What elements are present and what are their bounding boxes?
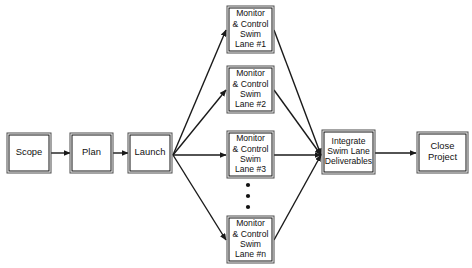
edge-launch-to-lane2 (173, 90, 226, 155)
node-label-integrate: Swim Lane (327, 146, 370, 156)
edge-launch-to-lane1 (173, 30, 226, 155)
flowchart-canvas: ScopePlanLaunchMonitor& ControlSwimLane … (0, 0, 472, 268)
node-label-lane2: & Control (233, 79, 269, 89)
edge-lane1-to-integrate (274, 30, 321, 155)
ellipsis-dot-1 (246, 183, 250, 187)
node-label-lane1: Swim (240, 29, 261, 39)
node-integrate[interactable]: IntegrateSwim LaneDeliverables (322, 130, 375, 174)
node-label-plan: Plan (82, 146, 101, 157)
nodes-layer: ScopePlanLaunchMonitor& ControlSwimLane … (7, 6, 468, 263)
node-plan[interactable]: Plan (70, 133, 113, 173)
node-label-lane1: Lane #1 (235, 39, 266, 49)
node-label-launch: Launch (135, 146, 166, 157)
node-label-lane1: Monitor (236, 8, 265, 18)
node-label-lane3: Swim (240, 154, 261, 164)
node-label-lane1: & Control (233, 19, 269, 29)
node-lane1[interactable]: Monitor& ControlSwimLane #1 (227, 6, 274, 53)
node-lanen[interactable]: Monitor& ControlSwimLane #n (227, 216, 274, 263)
node-lane2[interactable]: Monitor& ControlSwimLane #2 (227, 66, 274, 113)
node-label-lane2: Lane #2 (235, 99, 266, 109)
node-label-close: Close (431, 140, 455, 151)
edge-launch-to-lanen (173, 155, 226, 240)
edge-lane2-to-integrate (274, 90, 321, 155)
vertical-ellipsis (246, 183, 250, 209)
node-label-close: Project (428, 151, 458, 162)
node-label-lane3: & Control (233, 144, 269, 154)
flowchart-diagram: ScopePlanLaunchMonitor& ControlSwimLane … (0, 0, 472, 268)
node-label-lanen: Swim (240, 239, 261, 249)
ellipsis-dot-2 (246, 194, 250, 198)
node-label-lane3: Lane #3 (235, 164, 266, 174)
node-scope[interactable]: Scope (7, 133, 51, 173)
node-label-scope: Scope (16, 146, 43, 157)
node-label-lanen: & Control (233, 229, 269, 239)
node-label-lanen: Monitor (236, 218, 265, 228)
edge-lanen-to-integrate (274, 155, 321, 240)
node-label-lane3: Monitor (236, 133, 265, 143)
node-launch[interactable]: Launch (128, 133, 172, 173)
ellipsis-dot-3 (246, 205, 250, 209)
node-label-lane2: Swim (240, 89, 261, 99)
node-label-integrate: Deliverables (325, 156, 372, 166)
node-label-lane2: Monitor (236, 68, 265, 78)
node-close[interactable]: CloseProject (417, 132, 468, 173)
node-label-lanen: Lane #n (235, 249, 266, 259)
node-lane3[interactable]: Monitor& ControlSwimLane #3 (227, 131, 274, 178)
node-label-integrate: Integrate (332, 136, 366, 146)
